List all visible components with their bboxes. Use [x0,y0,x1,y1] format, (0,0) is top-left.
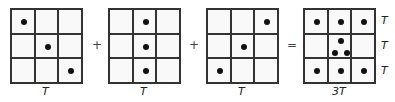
grid-label: T [140,85,147,98]
row-label: T [381,64,388,77]
grid-label: 3T [332,85,346,98]
dot [314,19,320,25]
dot [21,19,27,25]
grid-1 [10,8,83,84]
dot [68,68,74,74]
dot [241,44,247,50]
dot [361,68,367,74]
dot [338,19,344,25]
dot [45,44,51,50]
plus-operator: + [92,38,102,52]
grid-2 [108,8,181,84]
plus-operator: + [189,38,199,52]
grid-label: T [42,85,49,98]
dot [314,68,320,74]
dot [361,19,367,25]
equals-operator: = [287,38,297,52]
dot [338,68,344,74]
row-label: T [381,14,388,27]
row-label: T [381,39,388,52]
dot [332,50,338,56]
dot [143,68,149,74]
dot [217,68,223,74]
dot [344,50,350,56]
dot [338,38,344,44]
grid-label: T [238,85,245,98]
dot [143,19,149,25]
grid-sum [303,8,376,84]
dot [143,44,149,50]
dot [264,19,270,25]
grid-3 [206,8,279,84]
